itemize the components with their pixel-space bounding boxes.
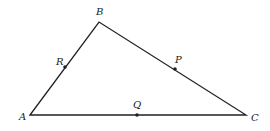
point-marker-r — [63, 65, 67, 69]
triangle-diagram: ABCRPQ — [0, 0, 270, 131]
point-marker-p — [173, 67, 177, 71]
point-marker-q — [135, 113, 139, 117]
point-label-q: Q — [133, 99, 141, 110]
vertex-label-b: B — [95, 6, 103, 17]
point-label-p: P — [174, 54, 182, 65]
vertex-label-a: A — [18, 111, 26, 122]
vertex-label-c: C — [251, 112, 259, 123]
point-label-r: R — [55, 56, 64, 67]
